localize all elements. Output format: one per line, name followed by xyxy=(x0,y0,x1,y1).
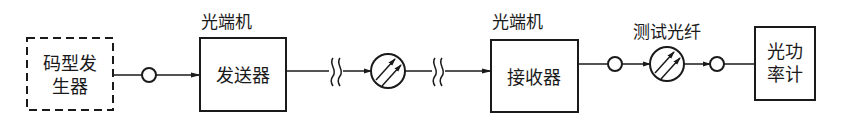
pattern-generator-box xyxy=(27,38,113,110)
connector-3-icon xyxy=(710,57,724,71)
power-meter-label-line1: 光功 xyxy=(767,41,803,62)
power-meter-label-line2: 率计 xyxy=(767,64,803,85)
power-meter-block: 光功 率计 xyxy=(755,27,815,100)
test-fiber-caption: 测试光纤 xyxy=(633,22,701,42)
pattern-generator-block: 码型发 生器 xyxy=(27,38,113,110)
link-generator-to-transmitter xyxy=(113,68,200,82)
pattern-generator-label-line1: 码型发 xyxy=(43,53,97,74)
receiver-label: 接收器 xyxy=(507,67,561,88)
connector-2-icon xyxy=(608,57,622,71)
receiver-caption: 光端机 xyxy=(492,12,543,32)
transmitter-caption: 光端机 xyxy=(201,12,252,32)
transmitter-block: 光端机 发送器 xyxy=(200,12,286,111)
pattern-generator-label-line2: 生器 xyxy=(52,76,88,97)
test-fiber-coil-icon xyxy=(650,47,684,81)
test-fiber-path: 测试光纤 xyxy=(578,22,755,81)
break-mark-icon xyxy=(433,58,443,86)
break-mark-icon xyxy=(331,58,341,86)
fiber-link xyxy=(286,54,491,88)
block-diagram: 码型发 生器 光端机 发送器 光端机 xyxy=(0,0,842,122)
receiver-block: 光端机 接收器 xyxy=(491,12,578,112)
connector-1-icon xyxy=(142,68,156,82)
transmitter-label: 发送器 xyxy=(216,65,270,86)
optical-fiber-coil-icon xyxy=(371,54,405,88)
